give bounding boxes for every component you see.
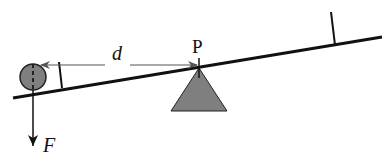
- left-marker: [59, 62, 62, 88]
- pivot-label: P: [192, 36, 203, 57]
- right-marker: [331, 12, 335, 45]
- lever-diagram: d P F: [0, 0, 389, 152]
- distance-label: d: [112, 42, 123, 64]
- force-label: F: [42, 134, 56, 152]
